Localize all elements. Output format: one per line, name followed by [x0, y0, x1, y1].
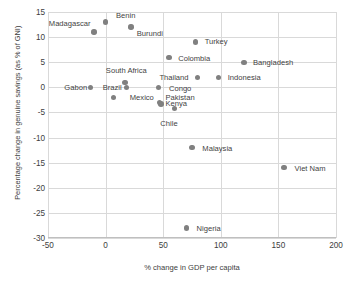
- gridline-vertical: [106, 12, 107, 238]
- data-point-label: Indonesia: [228, 74, 261, 82]
- gridline-horizontal: [48, 163, 336, 164]
- y-axis-tick-label: 10: [36, 33, 45, 42]
- gridline-horizontal: [48, 112, 336, 113]
- data-point-label: Gabon: [64, 84, 87, 92]
- y-axis-title: Percentage change in genuine savings (as…: [13, 3, 22, 223]
- data-point-label: Bangladesh: [253, 59, 293, 67]
- x-axis-tick-label: 200: [329, 241, 343, 250]
- gridline-horizontal: [48, 213, 336, 214]
- scatter-chart: Percentage change in genuine savings (as…: [0, 0, 346, 283]
- x-axis-tick-label: 50: [159, 241, 168, 250]
- x-axis-tick-label: 100: [214, 241, 228, 250]
- data-point-label: South Africa: [106, 67, 147, 75]
- data-point[interactable]: [156, 85, 161, 90]
- data-point[interactable]: [166, 55, 171, 60]
- y-axis-tick-label: 0: [40, 83, 45, 92]
- data-point-label: Kenya: [166, 100, 188, 108]
- y-axis-tick-label: -15: [33, 158, 45, 167]
- gridline-horizontal: [48, 138, 336, 139]
- x-axis-tick-label: 150: [272, 241, 286, 250]
- data-point[interactable]: [184, 225, 189, 230]
- gridline-horizontal: [48, 37, 336, 38]
- data-point[interactable]: [91, 29, 96, 34]
- x-axis-title: % change in GDP per capita: [48, 263, 336, 272]
- y-axis-tick-label: 5: [40, 58, 45, 67]
- y-axis-tick-label: -10: [33, 133, 45, 142]
- data-point-label: Burundi: [137, 29, 163, 37]
- x-axis-line: [48, 237, 336, 238]
- data-point[interactable]: [103, 19, 108, 24]
- data-point-label: Thailand: [159, 74, 188, 82]
- gridline-vertical: [336, 12, 337, 238]
- data-point-label: Madagascar: [49, 20, 91, 28]
- gridline-horizontal: [48, 12, 336, 13]
- data-point-label: Chile: [160, 120, 177, 128]
- data-point[interactable]: [193, 39, 198, 44]
- x-axis-tick-label: 0: [103, 241, 108, 250]
- plot-area: 151050-5-10-15-20-25-30 -50050100150200 …: [48, 12, 336, 238]
- data-point-label: Turkey: [205, 38, 228, 46]
- data-point[interactable]: [158, 101, 163, 106]
- data-point-label: Viet Nam: [295, 164, 326, 172]
- data-point[interactable]: [281, 165, 286, 170]
- y-axis-tick-label: -20: [33, 183, 45, 192]
- data-point-label: Brazil: [103, 84, 122, 92]
- data-point[interactable]: [189, 145, 194, 150]
- data-point[interactable]: [128, 24, 133, 29]
- data-point[interactable]: [88, 85, 93, 90]
- data-point[interactable]: [124, 85, 129, 90]
- y-axis-tick-label: -5: [38, 108, 45, 117]
- gridline-vertical: [278, 12, 279, 238]
- data-point-label: Malaysia: [202, 144, 232, 152]
- gridline-vertical: [48, 12, 49, 238]
- gridline-horizontal: [48, 238, 336, 239]
- data-point-label: Mexico: [130, 94, 154, 102]
- data-point-label: Colombia: [178, 55, 210, 63]
- y-axis-tick-label: -25: [33, 208, 45, 217]
- y-axis-tick-label: 15: [36, 8, 45, 17]
- data-point-label: Benin: [116, 11, 135, 19]
- data-point-label: Nigeria: [197, 225, 221, 233]
- data-point[interactable]: [111, 95, 116, 100]
- data-point[interactable]: [241, 60, 246, 65]
- data-point[interactable]: [195, 75, 200, 80]
- x-axis-tick-label: -50: [42, 241, 54, 250]
- gridline-horizontal: [48, 188, 336, 189]
